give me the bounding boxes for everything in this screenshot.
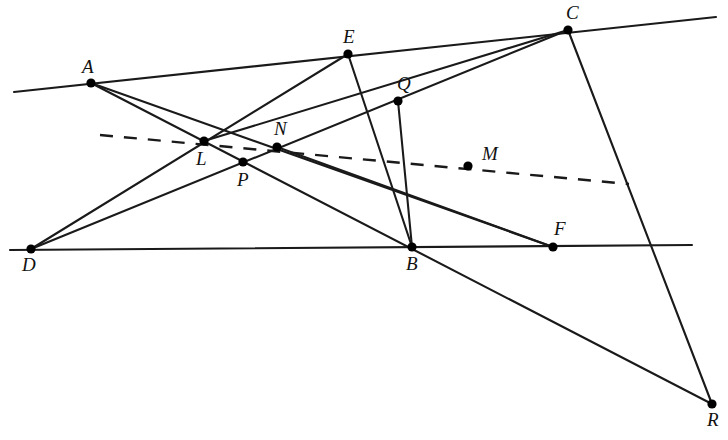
point-label-q: Q xyxy=(397,74,411,93)
point-label-m: M xyxy=(482,144,498,163)
dashed-line-LNM xyxy=(100,135,629,184)
point-f xyxy=(548,242,557,251)
point-q xyxy=(393,96,402,105)
line-AEC-extended xyxy=(14,17,716,92)
point-label-l: L xyxy=(196,149,207,168)
dashed-lines-group xyxy=(100,135,629,184)
point-label-p: P xyxy=(237,170,249,189)
solid-lines-group xyxy=(10,17,716,404)
line-C-through-Q-to-L xyxy=(204,30,568,141)
point-label-e: E xyxy=(343,27,355,46)
line-D-through-P-to-C xyxy=(31,30,568,249)
line-D-through-L-to-E xyxy=(31,54,348,249)
line-N-through-M-to-F xyxy=(277,147,553,247)
point-b xyxy=(407,242,416,251)
point-label-r: R xyxy=(707,410,719,429)
geometry-canvas xyxy=(0,0,728,440)
line-C-through-M-to-R xyxy=(568,30,712,404)
point-l xyxy=(199,136,208,145)
point-label-f: F xyxy=(554,219,566,238)
point-d xyxy=(26,244,35,253)
line-DBF-extended xyxy=(10,245,692,250)
point-p xyxy=(238,157,247,166)
point-label-d: D xyxy=(22,255,36,274)
point-label-n: N xyxy=(274,119,287,138)
point-label-a: A xyxy=(82,57,94,76)
points-group xyxy=(26,25,716,408)
point-e xyxy=(343,49,352,58)
point-a xyxy=(86,78,95,87)
point-n xyxy=(272,142,281,151)
point-label-b: B xyxy=(406,254,418,273)
point-m xyxy=(463,161,472,170)
point-label-c: C xyxy=(566,3,579,22)
point-r xyxy=(707,399,716,408)
point-c xyxy=(563,25,572,34)
geometry-figure: AECQLNPMDBFR xyxy=(0,0,728,440)
